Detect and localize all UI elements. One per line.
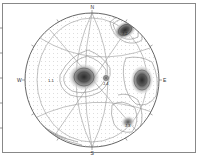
cluster-label-top-right: J-2 bbox=[122, 31, 128, 36]
stereonet-figure: N S W E J-2 J-4 J-3 1-1 bbox=[0, 0, 203, 161]
west-label: W bbox=[17, 77, 22, 83]
east-label: E bbox=[163, 77, 167, 83]
north-label: N bbox=[91, 4, 95, 10]
cluster-label-west: 1-1 bbox=[48, 78, 55, 83]
cluster-label-south-east: J-3 bbox=[125, 123, 131, 128]
cluster-label-center-small: J-4 bbox=[103, 81, 109, 86]
